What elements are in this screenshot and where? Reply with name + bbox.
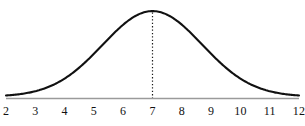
- chart-plot-area: [0, 0, 305, 126]
- normal-distribution-chart: 2 3 4 5 6 7 8 9 10 11 12: [0, 0, 305, 126]
